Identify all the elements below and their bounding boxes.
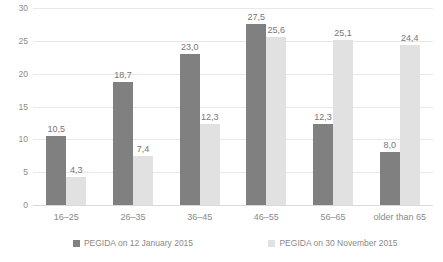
legend-item[interactable]: PEGIDA on 12 January 2015 xyxy=(33,236,233,250)
bar-pair: 27,525,6 xyxy=(233,8,300,205)
bar-value-label: 12,3 xyxy=(201,112,219,122)
bar[interactable] xyxy=(66,177,86,205)
bar[interactable] xyxy=(180,54,200,205)
bar[interactable] xyxy=(113,82,133,205)
bar-group: 12,325,1 xyxy=(300,8,367,205)
bar[interactable] xyxy=(313,124,333,205)
bar-column: 7,4 xyxy=(133,8,153,205)
bar-column: 12,3 xyxy=(200,8,220,205)
bar-chart: 051015202530 10,54,318,77,423,012,327,52… xyxy=(0,0,443,262)
bar[interactable] xyxy=(246,24,266,205)
bar-pair: 10,54,3 xyxy=(33,8,100,205)
bar-column: 25,1 xyxy=(333,8,353,205)
bar-pair: 8,024,4 xyxy=(366,8,433,205)
bar[interactable] xyxy=(380,152,400,205)
bar-value-label: 27,5 xyxy=(248,12,266,22)
legend-swatch-icon xyxy=(268,240,275,247)
legend-label: PEGIDA on 12 January 2015 xyxy=(84,238,193,248)
bar[interactable] xyxy=(266,37,286,205)
x-tick-label: 56–65 xyxy=(300,208,367,226)
y-tick-label: 30 xyxy=(19,4,28,13)
legend-item[interactable]: PEGIDA on 30 November 2015 xyxy=(233,236,433,250)
bar-value-label: 12,3 xyxy=(314,112,332,122)
bar-pair: 18,77,4 xyxy=(100,8,167,205)
x-tick-label: older than 65 xyxy=(366,208,433,226)
y-tick-label: 20 xyxy=(19,69,28,78)
x-axis: 16–2526–3536–4546–5556–65older than 65 xyxy=(33,208,433,226)
bar-value-label: 4,3 xyxy=(70,165,83,175)
y-tick-label: 5 xyxy=(23,168,28,177)
bar[interactable] xyxy=(46,136,66,205)
y-tick-label: 10 xyxy=(19,135,28,144)
bar-value-label: 10,5 xyxy=(48,124,66,134)
bar-group: 10,54,3 xyxy=(33,8,100,205)
bar-group: 18,77,4 xyxy=(100,8,167,205)
bar-column: 8,0 xyxy=(380,8,400,205)
bar-value-label: 24,4 xyxy=(401,33,419,43)
bar-value-label: 18,7 xyxy=(114,70,132,80)
bar-groups: 10,54,318,77,423,012,327,525,612,325,18,… xyxy=(33,8,433,205)
bar-group: 27,525,6 xyxy=(233,8,300,205)
chart-legend: PEGIDA on 12 January 2015PEGIDA on 30 No… xyxy=(33,236,433,250)
bar-column: 24,4 xyxy=(400,8,420,205)
bar-column: 4,3 xyxy=(66,8,86,205)
bar[interactable] xyxy=(133,156,153,205)
legend-label: PEGIDA on 30 November 2015 xyxy=(279,238,397,248)
bar-value-label: 7,4 xyxy=(137,144,150,154)
bar-group: 8,024,4 xyxy=(366,8,433,205)
bar[interactable] xyxy=(200,124,220,205)
legend-swatch-icon xyxy=(73,240,80,247)
bar[interactable] xyxy=(400,45,420,205)
y-tick-label: 15 xyxy=(19,102,28,111)
bar-pair: 12,325,1 xyxy=(300,8,367,205)
bar-value-label: 25,1 xyxy=(334,28,352,38)
x-tick-label: 46–55 xyxy=(233,208,300,226)
y-tick-label: 25 xyxy=(19,36,28,45)
bar-column: 12,3 xyxy=(313,8,333,205)
bar-column: 25,6 xyxy=(266,8,286,205)
bar-column: 10,5 xyxy=(46,8,66,205)
bar-value-label: 23,0 xyxy=(181,42,199,52)
x-tick-label: 16–25 xyxy=(33,208,100,226)
bar-value-label: 8,0 xyxy=(383,140,396,150)
y-axis: 051015202530 xyxy=(0,0,31,213)
x-tick-label: 26–35 xyxy=(100,208,167,226)
bar-column: 27,5 xyxy=(246,8,266,205)
bar-pair: 23,012,3 xyxy=(166,8,233,205)
bar-group: 23,012,3 xyxy=(166,8,233,205)
bar-column: 23,0 xyxy=(180,8,200,205)
bar-value-label: 25,6 xyxy=(268,25,286,35)
bar-column: 18,7 xyxy=(113,8,133,205)
gridline-0 xyxy=(33,205,433,206)
y-tick-label: 0 xyxy=(23,201,28,210)
bar[interactable] xyxy=(333,40,353,205)
x-tick-label: 36–45 xyxy=(166,208,233,226)
